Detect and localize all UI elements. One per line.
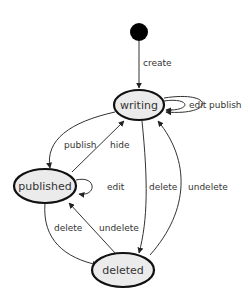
edge-writing-edit: edit [164, 100, 207, 110]
state-published: published [14, 169, 76, 203]
state-diagram: create edit publish publish hide edit de… [0, 0, 250, 304]
edge-label-published-delete: delete [54, 223, 83, 233]
edge-published-edit: edit [76, 179, 125, 194]
edge-label-writing-publish: publish [209, 100, 242, 110]
edge-label-writing-delete: delete [149, 182, 178, 192]
edge-published-delete: delete [45, 203, 98, 265]
edge-label-hide: hide [110, 140, 130, 150]
edge-label-create: create [143, 58, 172, 68]
edge-label-writing-undelete: undelete [188, 182, 228, 192]
state-deleted: deleted [92, 253, 154, 287]
state-writing: writing [114, 90, 164, 120]
state-label-writing: writing [120, 99, 158, 112]
edge-label-publish: publish [64, 140, 97, 150]
edge-create: create [139, 41, 172, 88]
edge-label-published-undelete: undelete [99, 223, 139, 233]
state-label-deleted: deleted [102, 264, 144, 277]
edge-label-published-edit: edit [107, 182, 125, 192]
state-label-published: published [18, 180, 72, 193]
edge-writing-delete: delete [139, 121, 178, 253]
start-node [130, 23, 148, 41]
